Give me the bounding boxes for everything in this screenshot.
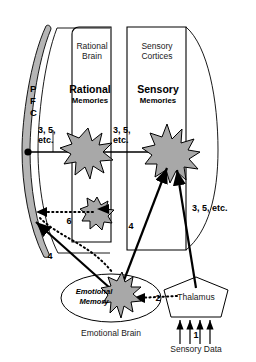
sensory-cortices-title-line1: Sensory bbox=[128, 42, 186, 51]
rational-brain-title-line2: Brain bbox=[62, 52, 122, 61]
sensory-memories-subtitle: Memories bbox=[128, 97, 188, 105]
rational-memories-title: Rational bbox=[59, 84, 121, 95]
edge-label-emotional-to-pfc: 4 bbox=[44, 252, 56, 262]
emotional-memory-line2: Memory bbox=[66, 298, 122, 306]
sensory-memories-title: Sensory bbox=[128, 84, 188, 95]
thalamus-label: Thalamus bbox=[168, 293, 224, 302]
edge-label-rational-to-sensory: 3, 5, etc. bbox=[113, 126, 147, 145]
edge-label-rational-small-to-pfc: 6 bbox=[63, 217, 75, 227]
rational-brain-title-line1: Rational bbox=[62, 42, 122, 51]
pfc-letter-c: C bbox=[30, 107, 37, 118]
edge-label-thalamus-to-emotional: 2 bbox=[152, 294, 164, 304]
pfc-letter-p: P bbox=[30, 83, 36, 94]
sensory-memories-starburst bbox=[142, 124, 200, 183]
emotional-memory-line1: Emotional bbox=[66, 288, 122, 296]
sensory-cortices-outer-curve bbox=[186, 27, 218, 250]
emotional-brain-caption: Emotional Brain bbox=[63, 329, 159, 338]
edge-label-pfc-to-rational: 3, 5, etc. bbox=[38, 126, 72, 145]
edge-label-sensory-data-input: 1 bbox=[190, 331, 202, 341]
edge-label-emotional-to-sensory: 4 bbox=[125, 222, 137, 232]
edge-label-sensory-right: 3, 5, etc. bbox=[192, 204, 252, 214]
sensory-cortices-title-line2: Cortices bbox=[128, 52, 186, 61]
rational-memories-subtitle: Memories bbox=[59, 97, 121, 105]
diagram-canvas: P F C Rational Brain Sensory Cortices Ra… bbox=[0, 0, 256, 362]
sensory-data-caption: Sensory Data bbox=[163, 345, 229, 354]
pfc-letter-f: F bbox=[30, 95, 36, 106]
